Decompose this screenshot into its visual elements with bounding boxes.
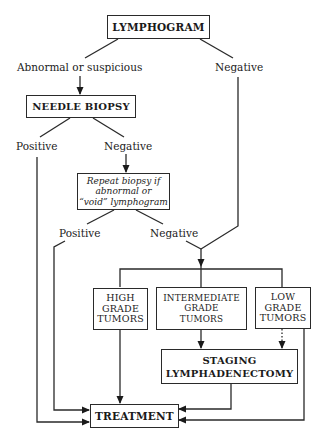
negative-label-biopsy: Negative [104, 140, 152, 152]
treatment-box: TREATMENT [90, 404, 179, 428]
staging-lymphadenectomy-box: STAGING LYMPHADENECTOMY [161, 349, 298, 384]
high-grade-line-3: TUMORS [97, 314, 144, 325]
positive-label-biopsy: Positive [16, 140, 57, 152]
intermediate-grade-tumors-box: INTERMEDIATE GRADE TUMORS [156, 287, 247, 330]
flowchart: LYMPHOGRAM Abnormal or suspicious Negati… [0, 0, 319, 435]
lymphogram-label: LYMPHOGRAM [112, 21, 204, 33]
intermediate-grade-line-3: TUMORS [180, 314, 223, 325]
high-grade-tumors-box: HIGH GRADE TUMORS [93, 288, 148, 330]
repeat-biopsy-line-3: “void” lymphogram [79, 197, 168, 208]
lymphogram-box: LYMPHOGRAM [107, 15, 210, 39]
repeat-biopsy-line-2: abnormal or [95, 186, 151, 197]
positive-label-repeat: Positive [59, 227, 100, 239]
negative-label-lymphogram: Negative [215, 61, 263, 73]
staging-line-1: STAGING [202, 354, 256, 367]
repeat-biopsy-line-1: Repeat biopsy if [87, 176, 161, 187]
treatment-label: TREATMENT [95, 410, 174, 422]
staging-line-2: LYMPHADENECTOMY [166, 367, 294, 380]
needle-biopsy-box: NEEDLE BIOPSY [26, 95, 136, 118]
abnormal-label: Abnormal or suspicious [17, 61, 142, 73]
negative-label-repeat: Negative [150, 227, 198, 239]
needle-biopsy-label: NEEDLE BIOPSY [32, 101, 130, 112]
low-grade-line-3: TUMORS [260, 313, 307, 324]
intermediate-grade-line-2: GRADE [184, 303, 218, 314]
low-grade-tumors-box: LOW GRADE TUMORS [255, 287, 311, 329]
repeat-biopsy-box: Repeat biopsy if abnormal or “void” lymp… [77, 173, 170, 210]
intermediate-grade-line-1: INTERMEDIATE [163, 293, 240, 304]
